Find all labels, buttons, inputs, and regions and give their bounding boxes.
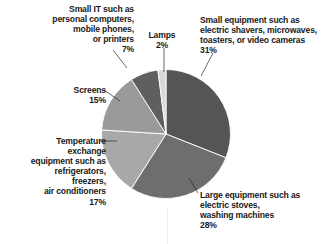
pie-chart-graphic (101, 69, 231, 199)
slice-label-small-equipment: Small equipment such as electric shavers… (200, 15, 324, 55)
slice-label-screens: Screens 15% (34, 85, 106, 105)
slice-label-large-equipment: Large equipment such as electric stoves,… (200, 190, 324, 230)
slice-label-lamps: Lamps 2% (137, 30, 187, 50)
scan-line-artifact (167, 206, 168, 244)
pie-svg (101, 69, 231, 199)
pie-chart-figure: Small IT such as personal computers, mob… (0, 0, 325, 244)
slice-label-small-it: Small IT such as personal computers, mob… (6, 4, 134, 54)
slice-label-temperature-exchange: Temperature exchange equipment such as r… (2, 136, 106, 207)
